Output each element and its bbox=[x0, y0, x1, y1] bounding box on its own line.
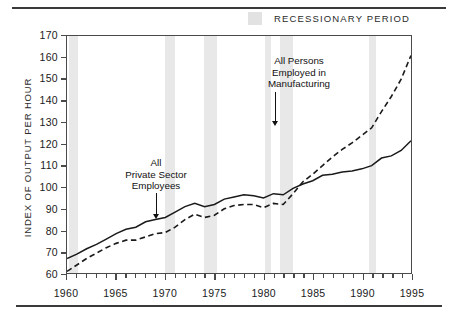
x-tick-1969 bbox=[155, 274, 156, 278]
y-tick-90 bbox=[61, 209, 66, 210]
x-tick-label-1985: 1985 bbox=[290, 287, 336, 299]
x-tick-1964 bbox=[106, 274, 107, 278]
y-tick-label-150: 150 bbox=[18, 72, 58, 84]
bottom-rule bbox=[16, 305, 442, 307]
x-tick-1975 bbox=[214, 274, 215, 280]
x-tick-1979 bbox=[254, 274, 255, 278]
y-tick-110 bbox=[61, 165, 66, 166]
x-tick-label-1990: 1990 bbox=[340, 287, 386, 299]
figure-root: RECESSIONARY PERIOD INDEX OF OUTPUT PER … bbox=[0, 0, 458, 319]
legend-label: RECESSIONARY PERIOD bbox=[274, 13, 410, 24]
x-tick-1985 bbox=[313, 274, 314, 280]
x-tick-1965 bbox=[115, 274, 116, 280]
x-tick-1989 bbox=[353, 274, 354, 278]
y-tick-label-80: 80 bbox=[18, 225, 58, 237]
x-tick-1982 bbox=[283, 274, 284, 278]
x-tick-1988 bbox=[343, 274, 344, 278]
x-tick-1980 bbox=[264, 274, 265, 280]
x-tick-1966 bbox=[125, 274, 126, 278]
x-tick-1993 bbox=[392, 274, 393, 278]
x-tick-label-1975: 1975 bbox=[191, 287, 237, 299]
legend: RECESSIONARY PERIOD bbox=[248, 11, 410, 25]
x-tick-1970 bbox=[165, 274, 166, 280]
y-tick-150 bbox=[61, 78, 66, 79]
x-tick-1972 bbox=[185, 274, 186, 278]
recession-band-swatch bbox=[248, 12, 262, 25]
y-tick-80 bbox=[61, 231, 66, 232]
x-tick-1981 bbox=[274, 274, 275, 278]
y-tick-label-60: 60 bbox=[18, 268, 58, 280]
x-tick-label-1970: 1970 bbox=[142, 287, 188, 299]
y-tick-170 bbox=[61, 35, 66, 36]
y-tick-label-140: 140 bbox=[18, 94, 58, 106]
x-tick-1960 bbox=[66, 274, 67, 280]
y-tick-label-120: 120 bbox=[18, 138, 58, 150]
y-tick-label-130: 130 bbox=[18, 116, 58, 128]
y-tick-100 bbox=[61, 187, 66, 188]
x-tick-1990 bbox=[363, 274, 364, 280]
x-tick-1968 bbox=[145, 274, 146, 278]
y-tick-140 bbox=[61, 100, 66, 101]
x-tick-label-1995: 1995 bbox=[389, 287, 435, 299]
x-tick-1992 bbox=[382, 274, 383, 278]
y-tick-160 bbox=[61, 57, 66, 58]
x-tick-1962 bbox=[86, 274, 87, 278]
x-tick-label-1980: 1980 bbox=[241, 287, 287, 299]
x-tick-1986 bbox=[323, 274, 324, 278]
x-tick-1971 bbox=[175, 274, 176, 278]
x-tick-1994 bbox=[402, 274, 403, 278]
y-tick-label-100: 100 bbox=[18, 181, 58, 193]
annotation-all-persons-employed-in-manufacturing: All Persons Employed in Manufacturing bbox=[236, 55, 362, 90]
y-tick-label-90: 90 bbox=[18, 203, 58, 215]
top-rule bbox=[12, 7, 446, 9]
x-tick-1977 bbox=[234, 274, 235, 278]
x-tick-1987 bbox=[333, 274, 334, 278]
y-tick-70 bbox=[61, 252, 66, 253]
x-tick-1967 bbox=[135, 274, 136, 278]
x-tick-1973 bbox=[195, 274, 196, 278]
y-tick-label-110: 110 bbox=[18, 159, 58, 171]
annotation-all-private-sector-employees: All Private Sector Employees bbox=[96, 157, 216, 192]
x-tick-1995 bbox=[412, 274, 413, 280]
y-tick-120 bbox=[61, 144, 66, 145]
x-tick-label-1965: 1965 bbox=[92, 287, 138, 299]
x-tick-1991 bbox=[372, 274, 373, 278]
x-tick-1976 bbox=[224, 274, 225, 278]
x-tick-1984 bbox=[303, 274, 304, 278]
y-tick-label-170: 170 bbox=[18, 29, 58, 41]
x-tick-1983 bbox=[293, 274, 294, 278]
y-tick-label-160: 160 bbox=[18, 51, 58, 63]
y-tick-label-70: 70 bbox=[18, 246, 58, 258]
x-tick-1961 bbox=[76, 274, 77, 278]
x-tick-1978 bbox=[244, 274, 245, 278]
x-tick-1974 bbox=[204, 274, 205, 278]
x-tick-label-1960: 1960 bbox=[43, 287, 89, 299]
x-tick-1963 bbox=[96, 274, 97, 278]
y-tick-130 bbox=[61, 122, 66, 123]
